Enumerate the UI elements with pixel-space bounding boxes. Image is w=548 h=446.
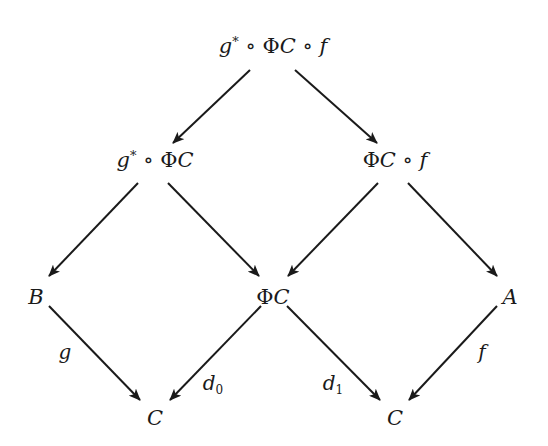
compose-operator: ∘ bbox=[403, 148, 413, 172]
symbol-c: C bbox=[280, 34, 296, 58]
symbol-c: C bbox=[387, 406, 403, 430]
symbol-c: C bbox=[147, 406, 163, 430]
symbol-c: C bbox=[380, 148, 396, 172]
symbol-b: B bbox=[28, 285, 43, 309]
symbol-star: * bbox=[130, 148, 137, 163]
compose-operator: ∘ bbox=[302, 34, 312, 58]
node-mid-right: ΦC ∘ f bbox=[363, 150, 428, 171]
symbol-phi: Φ bbox=[256, 285, 273, 309]
node-top: g* ∘ ΦC ∘ f bbox=[219, 35, 327, 57]
label-base: d bbox=[203, 371, 216, 395]
symbol-star: * bbox=[232, 34, 239, 49]
arrow-mid-right-to-a bbox=[408, 183, 497, 276]
edge-label-g: g bbox=[59, 342, 72, 362]
compose-operator: ∘ bbox=[245, 34, 255, 58]
symbol-f: f bbox=[420, 148, 428, 172]
node-b: B bbox=[28, 287, 43, 308]
compose-operator: ∘ bbox=[143, 148, 153, 172]
node-center-phi-c: ΦC bbox=[256, 287, 289, 308]
node-mid-left: g* ∘ ΦC bbox=[117, 149, 194, 171]
symbol-c: C bbox=[274, 285, 290, 309]
label-subscript: 0 bbox=[216, 383, 224, 397]
edge-label-f: f bbox=[478, 342, 485, 362]
symbol-phi: Φ bbox=[363, 148, 380, 172]
symbol-g: g bbox=[117, 148, 130, 172]
label-base: g bbox=[59, 340, 72, 364]
symbol-phi: Φ bbox=[160, 148, 177, 172]
edge-label-d0: d0 bbox=[203, 373, 223, 396]
symbol-f: f bbox=[319, 34, 327, 58]
arrow-top-to-mid-right bbox=[295, 70, 377, 143]
symbol-a: A bbox=[502, 285, 517, 309]
symbol-g: g bbox=[219, 34, 232, 58]
arrow-mid-left-to-center bbox=[168, 183, 259, 276]
symbol-phi: Φ bbox=[262, 34, 279, 58]
arrows-layer bbox=[0, 0, 548, 446]
label-subscript: 1 bbox=[336, 383, 344, 397]
edge-label-d1: d1 bbox=[323, 373, 343, 396]
node-c-right: C bbox=[387, 408, 403, 429]
label-base: f bbox=[478, 340, 485, 364]
symbol-c: C bbox=[177, 148, 193, 172]
node-a: A bbox=[502, 287, 517, 308]
arrow-mid-right-to-center bbox=[288, 183, 378, 276]
label-base: d bbox=[323, 371, 336, 395]
arrow-mid-left-to-b bbox=[49, 183, 138, 276]
node-c-left: C bbox=[147, 408, 163, 429]
commutative-diagram: g* ∘ ΦC ∘ f g* ∘ ΦC ΦC ∘ f B ΦC A C C g … bbox=[0, 0, 548, 446]
arrow-top-to-mid-left bbox=[173, 70, 250, 143]
